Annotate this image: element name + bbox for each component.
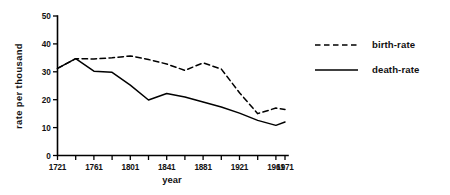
y-tick-label: 0 <box>46 152 51 161</box>
chart-axes <box>58 16 289 156</box>
y-tick-label: 30 <box>42 68 51 77</box>
legend-label-birth-rate: birth-rate <box>372 39 415 50</box>
y-axis-tick-labels: 01020304050 <box>42 12 51 161</box>
y-axis-title: rate per thousand <box>13 43 24 129</box>
x-axis-tick-labels: 17211761180118411881192119611971 <box>49 163 295 172</box>
chart-canvas: 01020304050 1721176118011841188119211961… <box>0 0 450 195</box>
y-tick-label: 50 <box>42 12 51 21</box>
data-series-group <box>58 56 286 125</box>
series-line-birth-rate <box>58 56 286 114</box>
series-line-death-rate <box>58 59 286 126</box>
birth-death-rate-line-chart: 01020304050 1721176118011841188119211961… <box>0 0 450 195</box>
axis-lines <box>58 16 289 156</box>
x-tick-label: 1971 <box>276 163 294 172</box>
y-tick-label: 20 <box>42 96 51 105</box>
chart-legend: birth-ratedeath-rate <box>315 39 419 75</box>
x-axis-title: year <box>162 174 182 185</box>
legend-label-death-rate: death-rate <box>372 64 419 75</box>
x-tick-label: 1721 <box>49 163 67 172</box>
x-tick-label: 1801 <box>122 163 140 172</box>
x-tick-label: 1921 <box>231 163 249 172</box>
y-tick-label: 10 <box>42 124 51 133</box>
y-tick-label: 40 <box>42 40 51 49</box>
x-tick-label: 1841 <box>158 163 176 172</box>
x-tick-label: 1881 <box>194 163 212 172</box>
x-tick-label: 1761 <box>85 163 103 172</box>
